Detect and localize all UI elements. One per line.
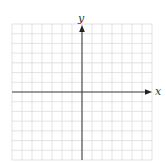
y-axis-label: y [78, 13, 84, 24]
y-axis-arrow-icon [79, 25, 85, 32]
x-axis-label: x [155, 86, 161, 97]
x-axis-arrow-icon [145, 89, 152, 95]
